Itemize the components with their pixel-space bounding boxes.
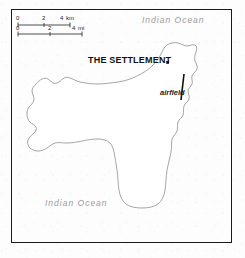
scale-km-tick-2: 2 [42,15,45,21]
scale-mi-unit: mi [78,25,84,31]
scale-mi-tick-0: 0 [16,25,19,31]
map-container: 0 2 4 km 0 2 4 mi THE SETTLEMENT airfiel… [0,0,245,258]
settlement-label: THE SETTLEMENT [88,56,171,65]
airfield-label: airfield [160,89,185,97]
scale-km-tick-0: 0 [16,15,19,21]
ocean-label-northeast: Indian Ocean [142,16,205,25]
scale-mi-tick-4: 4 [72,25,75,31]
scale-km-tick-4: 4 [60,15,63,21]
ocean-label-southwest: Indian Ocean [45,199,108,208]
scale-km-unit: km [66,15,74,21]
scale-mi-tick-2: 2 [48,25,51,31]
